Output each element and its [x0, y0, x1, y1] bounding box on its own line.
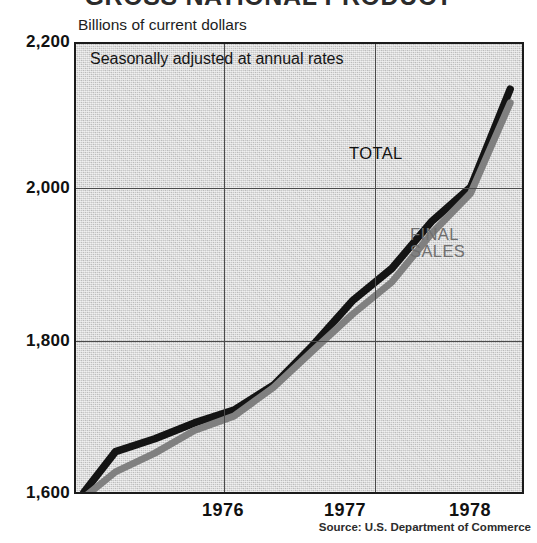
gridline-year-1977	[224, 44, 225, 492]
plot-note: Seasonally adjusted at annual rates	[90, 50, 344, 68]
y-tick-2200: 2,200	[2, 32, 70, 52]
source-note: Source: U.S. Department of Commerce	[319, 521, 531, 533]
y-axis: 2,200 2,000 1,800 1,600	[0, 0, 70, 543]
y-tick-2000: 2,000	[2, 178, 70, 198]
x-tick-1976: 1976	[178, 500, 268, 521]
plot-area: Seasonally adjusted at annual rates TOTA…	[74, 42, 524, 494]
x-tick-1978: 1978	[425, 500, 515, 521]
gridline-1800	[76, 341, 522, 342]
chart-title: GROSS NATIONAL PRODUCT	[0, 0, 537, 11]
total-line	[84, 89, 510, 492]
y-tick-1600: 1,600	[2, 483, 70, 503]
series-label-total: TOTAL	[349, 144, 403, 163]
y-axis-unit-label: Billions of current dollars	[78, 16, 247, 34]
final-sales-line	[84, 103, 510, 494]
series-label-final-sales: FINAL SALES	[410, 226, 465, 260]
y-tick-1800: 1,800	[2, 331, 70, 351]
series-label-final-sales-line1: FINAL	[410, 226, 465, 243]
gridline-2000	[76, 188, 522, 189]
series-lines	[76, 44, 524, 494]
chart-figure: GROSS NATIONAL PRODUCT Billions of curre…	[0, 0, 537, 543]
gridline-year-1978	[375, 44, 376, 492]
series-label-final-sales-line2: SALES	[410, 243, 465, 260]
x-tick-1977: 1977	[300, 500, 390, 521]
